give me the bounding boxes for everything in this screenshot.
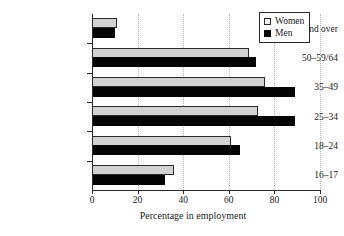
gridline — [183, 14, 184, 190]
bar-women — [92, 77, 265, 87]
bar-men — [92, 145, 240, 155]
gridline — [138, 14, 139, 190]
legend-item-men[interactable]: Men — [264, 27, 304, 39]
category-label: 50–59/64 — [256, 53, 344, 64]
bar-women — [92, 18, 117, 28]
y-axis-tick — [87, 73, 92, 74]
x-axis-tick — [138, 190, 139, 194]
category-label: 18–24 — [256, 141, 344, 152]
x-axis-tick — [274, 190, 275, 194]
y-axis-tick — [87, 102, 92, 103]
category-label: 16–17 — [256, 170, 344, 181]
legend: Women Men — [259, 12, 310, 43]
x-axis-tick — [92, 190, 93, 194]
legend-item-women[interactable]: Women — [264, 15, 304, 27]
x-axis-tick-label: 80 — [254, 195, 294, 206]
gridline — [320, 14, 321, 190]
y-axis-tick — [87, 43, 92, 44]
bar-men — [92, 175, 165, 185]
men-swatch-icon — [264, 30, 271, 37]
bar-men — [92, 57, 256, 67]
x-axis-tick-label: 60 — [209, 195, 249, 206]
bar-women — [92, 106, 258, 116]
x-axis-tick-label: 0 — [72, 195, 112, 206]
x-axis-tick-label: 20 — [118, 195, 158, 206]
gridline — [229, 14, 230, 190]
employment-bar-chart: 60/65 and over50–59/6435–4925–3418–2416–… — [0, 0, 344, 236]
legend-label-men: Men — [275, 28, 292, 39]
women-swatch-icon — [264, 18, 271, 25]
x-axis-tick — [229, 190, 230, 194]
x-axis-line — [92, 190, 321, 191]
x-axis-title: Percentage in employment — [0, 210, 344, 222]
y-axis-tick — [87, 131, 92, 132]
bar-women — [92, 165, 174, 175]
x-axis-tick — [320, 190, 321, 194]
legend-label-women: Women — [275, 16, 304, 27]
x-axis-title-text: Percentage in employment — [140, 210, 247, 222]
y-axis-tick — [87, 161, 92, 162]
category-label: 35–49 — [256, 82, 344, 93]
y-axis-line — [92, 14, 93, 191]
x-axis-tick-label: 100 — [300, 195, 340, 206]
category-label: 25–34 — [256, 112, 344, 123]
x-axis-tick — [183, 190, 184, 194]
x-axis-tick-label: 40 — [163, 195, 203, 206]
bar-men — [92, 28, 115, 38]
